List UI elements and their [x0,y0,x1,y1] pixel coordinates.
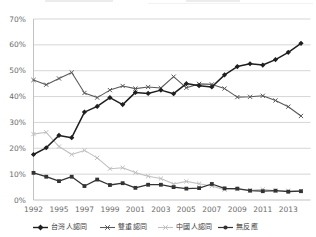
x-marker-icon [158,223,173,232]
dot-marker-icon [218,223,233,232]
legend-label: 中國人認同 [176,221,213,233]
svg-text:30%: 30% [9,118,26,127]
svg-text:2001: 2001 [126,205,145,214]
svg-text:70%: 70% [9,15,26,24]
svg-text:2003: 2003 [151,205,170,214]
x-marker-icon [100,223,115,232]
data-series [31,41,304,194]
legend-item-dual-identity: 雙重認同 [100,221,147,233]
svg-text:1992: 1992 [24,205,43,214]
identity-trend-line-chart: 0%10%20%30%40%50%60%70% 1992199519971999… [0,0,316,237]
series-1 [31,70,303,118]
svg-text:40%: 40% [9,92,26,101]
svg-text:2007: 2007 [202,205,221,214]
legend-item-no-response: 無反應 [218,221,258,233]
svg-text:2005: 2005 [177,205,196,214]
legend-label: 台灣人認同 [51,221,88,233]
legend: 台灣人認同 雙重認同 中國人認同 無反應 [0,221,316,235]
x-axis-tick-labels: 1992199519971999200120032005200720092011… [24,205,298,214]
svg-text:10%: 10% [9,170,26,179]
y-axis-tick-labels: 0%10%20%30%40%50%60%70% [9,15,26,205]
legend-label: 雙重認同 [118,221,147,233]
svg-text:1997: 1997 [75,205,94,214]
svg-text:0%: 0% [14,196,26,205]
svg-text:1999: 1999 [100,205,119,214]
svg-text:2013: 2013 [279,205,298,214]
svg-text:20%: 20% [9,144,26,153]
svg-text:2011: 2011 [253,205,272,214]
gridlines [34,19,311,200]
svg-text:60%: 60% [9,40,26,49]
series-0 [31,41,304,157]
diamond-marker-icon [33,223,48,232]
svg-text:50%: 50% [9,66,26,75]
legend-item-chinese-identity: 中國人認同 [158,221,213,233]
svg-text:1995: 1995 [49,205,68,214]
legend-label: 無反應 [236,221,258,233]
plot-area: 0%10%20%30%40%50%60%70% 1992199519971999… [0,0,316,237]
legend-item-taiwanese-identity: 台灣人認同 [33,221,88,233]
svg-text:2009: 2009 [228,205,247,214]
